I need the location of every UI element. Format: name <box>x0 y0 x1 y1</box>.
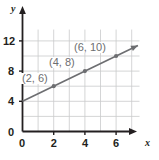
y-axis-label: y <box>11 4 15 14</box>
point-label-2-6: (2, 6) <box>21 73 49 84</box>
x-axis-tick-label-6: 6 <box>113 138 119 149</box>
point-label-4-8: (4, 8) <box>48 57 76 68</box>
y-axis-tick-label-8: 8 <box>8 66 14 77</box>
x-axis-tick-label-0: 0 <box>19 138 25 149</box>
y-axis-tick-label-0: 0 <box>8 127 14 138</box>
line-graph-figure: 0 4 8 12 0 2 4 6 y x (2, 6) (4, 8) (6, 1… <box>0 0 159 160</box>
x-axis-label: x <box>145 138 150 148</box>
x-axis-tick-label-2: 2 <box>51 138 57 149</box>
y-axis-tick-label-12: 12 <box>3 36 15 47</box>
point-label-6-10: (6, 10) <box>73 42 107 53</box>
axes <box>19 6 137 135</box>
axis-tick-marks <box>19 41 116 135</box>
x-axis-tick-label-4: 4 <box>82 138 88 149</box>
y-axis-tick-label-4: 4 <box>8 96 14 107</box>
